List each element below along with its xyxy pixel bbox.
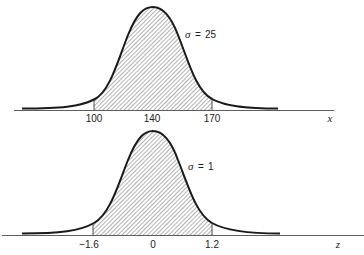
top-tick-140: 140 (144, 113, 161, 124)
top-sigma-eq: = (195, 29, 201, 40)
bottom-sigma-eq: = (198, 161, 204, 172)
bottom-tick-0: 0 (150, 239, 156, 250)
bottom-tick-neg1-6: −1.6 (79, 239, 99, 250)
top-axis-label: x (327, 112, 333, 124)
top-shaded-area (22, 7, 278, 110)
top-chart: σ = 25 100 140 170 x (14, 7, 334, 124)
bottom-sigma-symbol: σ (188, 160, 194, 172)
top-tick-170: 170 (204, 113, 221, 124)
top-sigma-symbol: σ (185, 28, 191, 40)
bottom-axis-label: z (335, 238, 341, 250)
bottom-sigma-value: 1 (208, 161, 214, 172)
bottom-shaded-area (22, 131, 280, 235)
bottom-chart: σ = 1 −1.6 0 1.2 z (2, 131, 364, 250)
normal-distribution-figure: σ = 25 100 140 170 x σ = 1 −1.6 0 1.2 z (0, 0, 364, 255)
top-tick-100: 100 (86, 113, 103, 124)
top-sigma-value: 25 (205, 29, 217, 40)
bottom-tick-1-2: 1.2 (205, 239, 219, 250)
